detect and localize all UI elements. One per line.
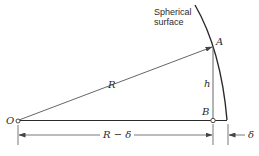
point-b-label: B (201, 106, 209, 117)
point-a-label: A (215, 36, 223, 47)
sag-label: δ (248, 129, 254, 140)
point-o-marker (16, 119, 20, 123)
base-length-label: R − δ (102, 129, 131, 140)
point-o-label: O (6, 115, 14, 126)
height-label: h (204, 78, 210, 89)
surface-label-line2: surface (154, 17, 184, 27)
surface-label-line1: Spherical (154, 7, 192, 17)
point-b-marker (211, 118, 215, 122)
spherical-sag-diagram: Spherical surface A B O R h R − δ δ (0, 0, 259, 156)
spherical-surface-arc (195, 5, 227, 120)
radius-label: R (107, 79, 116, 90)
